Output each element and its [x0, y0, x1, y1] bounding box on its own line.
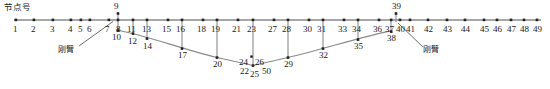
- node-label-4: 4: [68, 25, 73, 34]
- node-label-27: 27: [268, 25, 277, 34]
- node-label-5: 5: [78, 25, 83, 34]
- bridge-node-diagram-svg: [0, 0, 550, 89]
- node-label-11: 11: [127, 25, 136, 34]
- node-label-21: 21: [232, 25, 241, 34]
- node-label-1: 1: [13, 25, 18, 34]
- node-label-15: 15: [162, 25, 171, 34]
- node-label-39: 39: [392, 2, 401, 11]
- node-label-34: 34: [352, 25, 361, 34]
- node-label-49: 49: [533, 25, 542, 34]
- node-label-30: 30: [303, 25, 312, 34]
- node-label-50: 50: [262, 67, 271, 76]
- node-label-2: 2: [31, 25, 36, 34]
- node-label-25: 25: [250, 70, 259, 79]
- node-label-33: 33: [338, 25, 347, 34]
- node-label-38: 38: [387, 34, 396, 43]
- node-label-46: 46: [493, 25, 502, 34]
- node-label-44: 44: [461, 25, 470, 34]
- node-label-17: 17: [178, 51, 187, 60]
- node-label-28: 28: [282, 25, 291, 34]
- node-label-42: 42: [424, 25, 433, 34]
- node-label-40: 40: [396, 25, 405, 34]
- node-label-48: 48: [520, 25, 529, 34]
- node-label-35: 35: [354, 42, 363, 51]
- node-label-31: 31: [317, 25, 326, 34]
- node-label-32: 32: [319, 51, 328, 60]
- node-label-23: 23: [247, 25, 256, 34]
- figure-canvas: 节点号 1 2 3 4 5 6 7 8 11 13 15 16 18 19 21…: [0, 0, 550, 89]
- figure-title: 节点号: [4, 3, 31, 12]
- node-label-29: 29: [284, 60, 293, 69]
- node-label-3: 3: [50, 25, 55, 34]
- node-label-43: 43: [443, 25, 452, 34]
- node-label-47: 47: [507, 25, 516, 34]
- node-label-13: 13: [142, 25, 151, 34]
- node-label-22: 22: [240, 67, 249, 76]
- rigid-arm-label-left: 刚臂: [58, 46, 74, 54]
- node-label-45: 45: [480, 25, 489, 34]
- node-label-7: 7: [105, 25, 110, 34]
- rigid-arm-label-right: 刚臂: [423, 46, 439, 54]
- node-label-41: 41: [406, 25, 415, 34]
- node-label-16: 16: [176, 25, 185, 34]
- node-label-26: 26: [255, 58, 264, 67]
- node-label-18: 18: [197, 25, 206, 34]
- node-label-14: 14: [143, 42, 152, 51]
- node-label-12: 12: [128, 37, 137, 46]
- node-label-19: 19: [211, 25, 220, 34]
- node-label-6: 6: [87, 25, 92, 34]
- node-label-20: 20: [213, 60, 222, 69]
- node-label-9: 9: [114, 2, 119, 11]
- node-label-36: 36: [373, 25, 382, 34]
- node-label-10: 10: [112, 33, 121, 42]
- node-label-24: 24: [239, 58, 248, 67]
